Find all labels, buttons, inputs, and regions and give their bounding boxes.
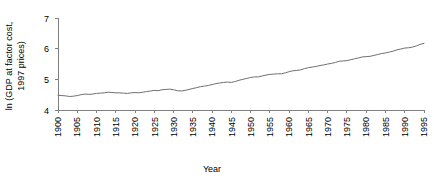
x-tick-label: 1985 bbox=[381, 117, 391, 137]
data-series-group bbox=[58, 43, 424, 96]
x-tick-label: 1980 bbox=[361, 117, 371, 137]
y-axis-tick-labels: 4567 bbox=[44, 14, 49, 116]
x-tick-label: 1955 bbox=[265, 117, 275, 137]
x-axis-tick-labels: 1900190519101915192019251930193519401945… bbox=[53, 117, 429, 137]
x-tick-label: 1910 bbox=[92, 117, 102, 137]
y-tick-label: 6 bbox=[44, 44, 49, 54]
y-tick-label: 7 bbox=[44, 14, 49, 24]
x-tick-label: 1915 bbox=[111, 117, 121, 137]
x-tick-label: 1920 bbox=[130, 117, 140, 137]
y-axis-title: ln (GDP at factor cost, 1997 prices) bbox=[4, 22, 26, 110]
x-tick-label: 1965 bbox=[304, 117, 314, 137]
x-axis-title: Year bbox=[203, 164, 221, 174]
x-tick-label: 1925 bbox=[150, 117, 160, 137]
y-tick-label: 4 bbox=[44, 106, 49, 116]
x-tick-label: 1940 bbox=[207, 117, 217, 137]
line-chart: ln (GDP at factor cost, 1997 prices) 456… bbox=[0, 0, 434, 185]
series-line bbox=[58, 43, 424, 96]
x-tick-label: 1995 bbox=[419, 117, 429, 137]
x-tick-label: 1930 bbox=[169, 117, 179, 137]
chart-container: ln (GDP at factor cost, 1997 prices) 456… bbox=[0, 0, 434, 185]
y-axis-title-line1: ln (GDP at factor cost, bbox=[4, 22, 14, 110]
x-tick-label: 1905 bbox=[72, 117, 82, 137]
x-tick-label: 1900 bbox=[53, 117, 63, 137]
x-tick-label: 1975 bbox=[342, 117, 352, 137]
x-tick-label: 1945 bbox=[227, 117, 237, 137]
y-axis-title-line2: 1997 prices) bbox=[16, 41, 26, 91]
x-tick-label: 1935 bbox=[188, 117, 198, 137]
x-tick-label: 1950 bbox=[246, 117, 256, 137]
x-tick-label: 1970 bbox=[323, 117, 333, 137]
x-tick-label: 1990 bbox=[400, 117, 410, 137]
y-tick-label: 5 bbox=[44, 75, 49, 85]
x-tick-label: 1960 bbox=[284, 117, 294, 137]
